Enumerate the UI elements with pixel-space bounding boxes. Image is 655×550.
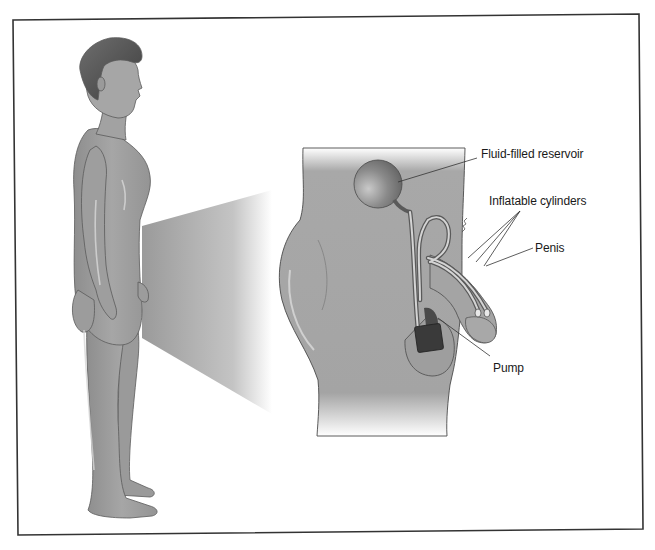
figure: Fluid-filled reservoir Inflatable cylind… <box>0 0 655 550</box>
label-fluid-filled-reservoir: Fluid-filled reservoir <box>481 147 584 161</box>
label-inflatable-cylinders: Inflatable cylinders <box>489 194 586 208</box>
label-pump: Pump <box>493 361 524 375</box>
label-penis: Penis <box>535 241 565 255</box>
